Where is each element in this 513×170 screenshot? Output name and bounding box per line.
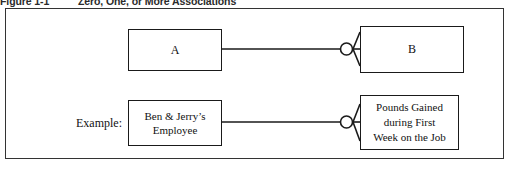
entity-box-a-label: A bbox=[129, 43, 221, 58]
entity-box-pounds-gained-line-3: Week on the Job bbox=[373, 131, 446, 143]
entity-box-b: B bbox=[360, 26, 464, 73]
entity-box-pounds-gained-line-1: Pounds Gained bbox=[376, 101, 443, 113]
figure-caption-title: Zero, One, or More Associations bbox=[78, 0, 236, 7]
figure-caption-label: Figure 1-1 bbox=[0, 0, 78, 7]
entity-box-a: A bbox=[128, 29, 222, 71]
entity-box-employee: Ben & Jerry’s Employee bbox=[128, 100, 222, 146]
figure-screenshot: Figure 1-1Zero, One, or More Association… bbox=[0, 0, 513, 170]
entity-box-employee-line-1: Ben & Jerry’s bbox=[144, 110, 205, 122]
entity-box-employee-label: Ben & Jerry’s Employee bbox=[129, 109, 221, 137]
example-label: Example: bbox=[52, 116, 122, 131]
figure-caption: Figure 1-1Zero, One, or More Association… bbox=[0, 0, 513, 8]
entity-box-pounds-gained: Pounds Gained during First Week on the J… bbox=[360, 95, 459, 150]
entity-box-employee-line-2: Employee bbox=[153, 124, 198, 136]
entity-box-b-label: B bbox=[361, 42, 463, 57]
entity-box-pounds-gained-label: Pounds Gained during First Week on the J… bbox=[361, 100, 458, 145]
entity-box-pounds-gained-line-2: during First bbox=[384, 116, 436, 128]
